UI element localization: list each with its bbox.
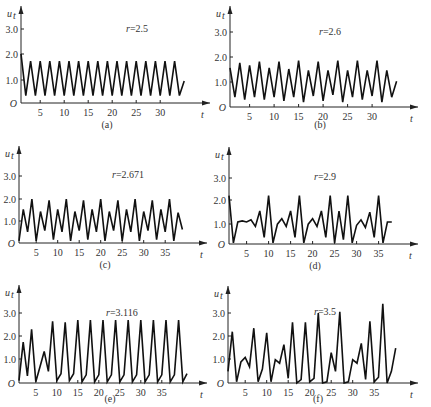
y-tick-label: 2.0 [213,331,226,342]
x-tick-label: 35 [157,387,167,398]
y-axis-label: u [5,148,10,159]
x-axis-label: t [200,249,203,260]
y-tick-label: 3.0 [4,308,17,319]
y-tick-label: 1.0 [214,219,227,230]
x-tick-label: 30 [136,387,146,398]
x-tick-label: 10 [53,247,63,258]
panel-caption: (d) [309,260,321,272]
x-axis-label: t [200,389,203,400]
x-axis-label: t [201,109,204,120]
x-tick-label: 5 [34,247,39,258]
x-tick-label: 25 [115,387,125,398]
y-axis-subscript: t [11,150,14,161]
y-tick-label: 3.0 [4,171,17,182]
x-tick-label: 10 [262,387,272,398]
series-line [19,320,187,382]
x-tick-label: 30 [155,107,165,118]
series-line [228,304,396,383]
x-tick-label: 25 [131,107,141,118]
series-line [230,61,397,103]
y-axis-arrow-icon [17,146,22,154]
y-tick-label: 2.0 [6,49,19,60]
x-axis-arrow-icon [202,101,210,106]
x-tick-label: 25 [326,387,336,398]
x-tick-label: 15 [286,248,296,259]
y-tick-label: 2.0 [4,331,17,342]
y-tick-label: 3.0 [215,27,228,38]
x-tick-label: 25 [343,111,353,122]
x-tick-label: 15 [83,107,93,118]
x-tick-label: 15 [283,387,293,398]
x-tick-label: 5 [38,107,43,118]
origin-label: O [217,378,224,389]
parameter-annotation: r=2.6 [319,26,341,37]
y-axis-arrow-icon [227,147,232,155]
series-line [19,199,182,241]
y-tick-label: 1.0 [4,216,17,227]
x-tick-label: 30 [348,387,358,398]
x-tick-label: 20 [308,248,318,259]
x-tick-label: 10 [269,111,279,122]
x-tick-label: 20 [107,107,117,118]
x-tick-label: 15 [294,111,304,122]
y-axis-subscript: t [11,289,14,300]
parameter-annotation: r=2.5 [126,23,148,34]
y-axis-arrow-icon [226,286,231,294]
origin-label: O [10,98,17,109]
x-tick-label: 5 [33,387,38,398]
y-axis-label: u [216,8,221,19]
x-tick-label: 5 [243,387,248,398]
x-axis-label: t [410,389,413,400]
y-axis-subscript: t [221,151,224,162]
y-axis-label: u [215,149,220,160]
panel-caption: (f) [313,393,323,405]
panel-caption: (c) [99,259,110,271]
y-axis-subscript: t [220,290,223,301]
x-tick-label: 5 [247,111,252,122]
x-axis-arrow-icon [410,242,418,247]
y-tick-label: 1.0 [4,354,17,365]
x-tick-label: 10 [264,248,274,259]
panel-caption: (b) [314,119,326,131]
origin-label: O [219,102,226,113]
x-tick-label: 15 [73,387,83,398]
series-line [21,54,184,96]
x-tick-label: 25 [117,247,127,258]
x-tick-label: 30 [139,247,149,258]
x-tick-label: 5 [244,248,249,259]
parameter-annotation: r=2.671 [112,169,144,180]
x-tick-label: 35 [374,248,384,259]
y-axis-label: u [5,287,10,298]
parameter-annotation: r=3.116 [106,307,138,318]
x-tick-label: 20 [96,247,106,258]
panel-caption: (a) [101,119,112,131]
x-tick-label: 15 [74,247,84,258]
parameter-annotation: r=3.5 [314,306,336,317]
y-tick-label: 2.0 [215,52,228,63]
origin-label: O [8,238,15,249]
y-axis-arrow-icon [17,285,22,293]
origin-label: O [218,239,225,250]
y-axis-label: u [7,8,12,19]
y-tick-label: 2.0 [214,195,227,206]
x-tick-label: 30 [352,248,362,259]
y-tick-label: 3.0 [213,308,226,319]
x-axis-arrow-icon [199,241,207,246]
x-tick-label: 30 [367,111,377,122]
y-axis-label: u [214,288,219,299]
y-tick-label: 1.0 [215,77,228,88]
y-tick-label: 3.0 [6,24,19,35]
figure-canvas: 1.02.03.051015202530Otutr=2.5(a)1.02.03.… [0,0,431,407]
x-tick-label: 35 [160,247,170,258]
y-axis-arrow-icon [228,6,233,14]
x-tick-label: 25 [330,248,340,259]
x-axis-arrow-icon [410,381,418,386]
x-tick-label: 10 [59,107,69,118]
series-line [229,196,392,243]
y-axis-subscript: t [222,10,225,21]
y-axis-arrow-icon [19,6,24,14]
x-tick-label: 35 [369,387,379,398]
y-tick-label: 1.0 [213,354,226,365]
y-axis-subscript: t [13,10,16,21]
panel-caption: (e) [104,393,115,405]
